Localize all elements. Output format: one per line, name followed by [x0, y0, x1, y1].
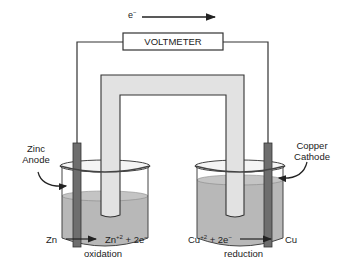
electrons: + 2e — [126, 234, 145, 245]
copper-cathode-label: Copper Cathode — [290, 140, 334, 162]
cu-ion-charge: +2 — [200, 234, 207, 240]
reduction-reactants: Cu+2 + 2e− — [188, 234, 232, 245]
electron-label: e− — [128, 10, 137, 21]
reduction-product: Cu — [285, 234, 297, 245]
zn-ion-charge: +2 — [116, 234, 123, 240]
copper-electrode — [264, 143, 272, 247]
oxidation-products: Zn+2 + 2e− — [105, 234, 148, 245]
oxidation-label: oxidation — [84, 248, 122, 259]
zinc-anode-label: Zinc Anode — [18, 143, 54, 165]
electrons: + 2e — [210, 234, 229, 245]
cathode-label-line2: Cathode — [290, 151, 334, 162]
electron-charge: − — [228, 234, 232, 240]
zinc-electrode — [73, 143, 81, 247]
cathode-label-line1: Copper — [290, 140, 334, 151]
reduction-label: reduction — [224, 248, 263, 259]
voltmeter-label: VOLTMETER — [123, 36, 223, 47]
electron-charge: − — [133, 9, 137, 15]
anode-label-line2: Anode — [18, 154, 54, 165]
oxidation-reactant: Zn — [46, 234, 57, 245]
cu-ion: Cu — [188, 234, 200, 245]
zn-ion: Zn — [105, 234, 116, 245]
electron-charge: − — [144, 234, 148, 240]
anode-label-line1: Zinc — [18, 143, 54, 154]
